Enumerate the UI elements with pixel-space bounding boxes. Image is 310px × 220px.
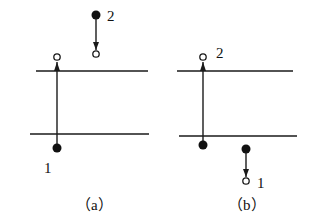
label-1-a: 1	[44, 160, 52, 176]
diagram: 1 2 （a） 2 1 （b）	[0, 0, 310, 220]
open-circle-1-b	[243, 178, 249, 184]
label-1-b: 1	[257, 175, 265, 191]
panel-b: 2 1 （b）	[177, 45, 297, 213]
caption-a: （a）	[76, 197, 113, 213]
filled-dot-start-b	[199, 141, 208, 150]
open-circle-2-a	[93, 51, 99, 57]
caption-b: （b）	[228, 197, 266, 213]
panel-a: 1 2 （a）	[30, 8, 149, 213]
label-2-b: 2	[216, 45, 224, 61]
arrowhead-down-a	[93, 42, 99, 50]
open-circle-top-a	[54, 54, 60, 60]
arrowhead-up-b	[200, 62, 206, 71]
label-2-a: 2	[107, 8, 115, 24]
arrowhead-up-a	[54, 62, 60, 71]
arrowhead-down-b	[243, 169, 249, 177]
open-circle-2-b	[200, 54, 206, 60]
filled-dot-1-a	[53, 144, 62, 153]
